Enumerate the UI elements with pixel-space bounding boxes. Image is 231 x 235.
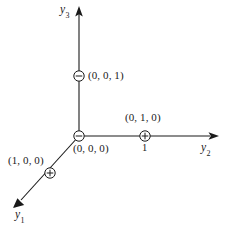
axis-label-y1: y1 [15, 209, 24, 223]
node-100-marker [45, 168, 55, 178]
node-010-marker [140, 131, 150, 141]
coordinate-axes-figure: y3 y2 y1 (0, 0, 1) (0, 0, 0) (0, 1, 0) 1… [0, 0, 231, 235]
node-100-coordinate-label: (1, 0, 0) [8, 155, 44, 166]
y2-tick-label-1: 1 [142, 143, 147, 154]
axis-label-y3-subscript: 3 [65, 11, 69, 20]
arrow-head-y1-icon [13, 198, 24, 208]
axes-drawing [0, 0, 231, 235]
node-001-coordinate-label: (0, 0, 1) [88, 70, 124, 81]
node-010-coordinate-label: (0, 1, 0) [125, 112, 161, 123]
axis-label-y2: y2 [201, 142, 210, 156]
node-001-marker [74, 71, 84, 81]
arrow-head-y2-icon [209, 132, 220, 140]
axis-label-y1-subscript: 1 [20, 216, 24, 225]
axis-label-y3: y3 [60, 4, 69, 18]
node-000-marker [74, 131, 84, 141]
node-000-coordinate-label: (0, 0, 0) [73, 143, 109, 154]
axis-label-y2-subscript: 2 [206, 149, 210, 158]
